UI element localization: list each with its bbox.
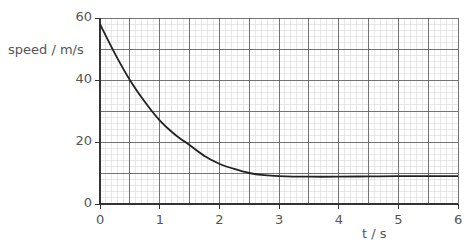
x-tick-label: 3 [275, 212, 283, 227]
x-axis-label: t / s [362, 226, 387, 241]
x-tick-label: 6 [454, 212, 462, 227]
x-tick-label: 1 [156, 212, 164, 227]
x-tick-label: 2 [215, 212, 223, 227]
axes [95, 18, 458, 209]
y-tick-label: 60 [75, 9, 92, 24]
y-axis-label: speed / m/s [8, 42, 84, 57]
y-tick-label: 20 [75, 133, 92, 148]
y-tick-label: 40 [75, 71, 92, 86]
x-tick-label: 4 [335, 212, 343, 227]
x-tick-label: 0 [96, 212, 104, 227]
x-tick-label: 5 [394, 212, 402, 227]
y-tick-label: 0 [84, 195, 92, 210]
